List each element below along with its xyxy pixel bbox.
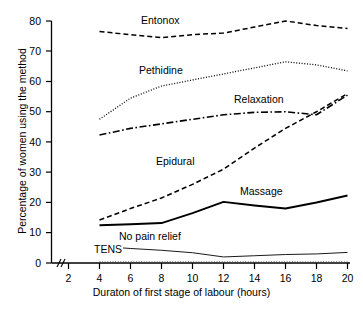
y-axis-title: Percentage of women using the method bbox=[16, 11, 28, 271]
line-chart: 80 70 60 50 40 30 20 10 0 2 4 6 8 10 12 … bbox=[0, 0, 363, 311]
x-tick-label-8: 8 bbox=[152, 272, 172, 284]
x-tick-label-6: 6 bbox=[121, 272, 141, 284]
series-line-pethidine bbox=[100, 62, 348, 119]
series-label-entonox: Entonox bbox=[140, 14, 181, 26]
x-tick-label-4: 4 bbox=[90, 272, 110, 284]
series-label-epidural: Epidural bbox=[155, 155, 196, 167]
x-tick-label-16: 16 bbox=[276, 272, 296, 284]
x-axis-ticks bbox=[69, 263, 348, 269]
series-label-tens: TENS bbox=[93, 243, 123, 255]
series-line-no-pain-relief bbox=[100, 246, 348, 257]
x-tick-label-12: 12 bbox=[214, 272, 234, 284]
x-axis-title: Duraton of first stage of labour (hours) bbox=[0, 286, 363, 298]
y-axis-ticks bbox=[46, 21, 52, 263]
series-layer bbox=[100, 21, 348, 262]
x-tick-label-2: 2 bbox=[59, 272, 79, 284]
x-tick-label-18: 18 bbox=[307, 272, 327, 284]
x-tick-label-10: 10 bbox=[183, 272, 203, 284]
series-label-no-pain-relief: No pain relief bbox=[118, 230, 182, 242]
series-line-massage bbox=[100, 196, 348, 226]
series-label-pethidine: Pethidine bbox=[138, 64, 184, 76]
series-line-entonox bbox=[100, 21, 348, 38]
x-tick-label-14: 14 bbox=[245, 272, 265, 284]
x-tick-label-20: 20 bbox=[338, 272, 358, 284]
series-label-relaxation: Relaxation bbox=[233, 93, 285, 105]
series-label-massage: Massage bbox=[239, 185, 284, 197]
